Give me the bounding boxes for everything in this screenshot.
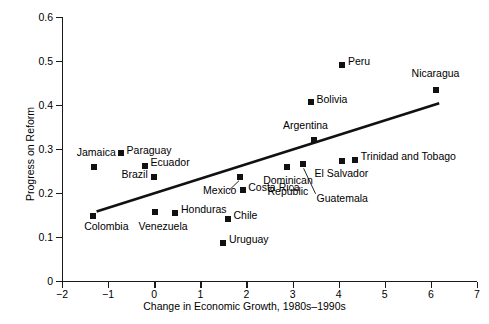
data-point-label: Bolivia	[317, 94, 348, 106]
data-point-label: Colombia	[84, 221, 128, 233]
data-point-marker	[220, 240, 226, 246]
data-point-marker	[339, 158, 345, 164]
data-point-marker	[300, 161, 306, 167]
data-point-marker	[311, 137, 317, 143]
data-point-label: Chile	[234, 210, 258, 222]
data-point-label: Brazil	[0, 169, 148, 181]
x-tick	[62, 282, 63, 288]
data-point-label: Uruguay	[229, 234, 269, 246]
data-point-label: Ecuador	[151, 157, 190, 169]
data-point-marker	[151, 174, 157, 180]
y-tick	[56, 105, 62, 106]
data-point-marker	[118, 150, 124, 156]
data-point-marker	[152, 209, 158, 215]
data-point-label: Honduras	[181, 204, 227, 216]
x-tick-label: −1	[88, 289, 128, 300]
x-tick-label: 1	[180, 289, 220, 300]
x-tick	[431, 282, 432, 288]
data-point-label: Paraguay	[127, 145, 172, 157]
x-tick	[246, 282, 247, 288]
x-tick	[293, 282, 294, 288]
data-point-label: Trinidad and Tobago	[361, 151, 456, 163]
data-point-marker	[352, 157, 358, 163]
data-point-marker	[339, 62, 345, 68]
data-point-label: Nicaragua	[376, 68, 489, 80]
x-tick-label: −2	[42, 289, 82, 300]
data-point-label: Guatemala	[317, 193, 368, 205]
x-tick	[477, 282, 478, 288]
y-tick	[56, 17, 62, 18]
data-point-marker	[172, 210, 178, 216]
x-axis-title: Change in Economic Growth, 1980s–1990s	[0, 300, 489, 312]
x-tick	[200, 282, 201, 288]
y-tick-label: 0.2	[13, 188, 53, 199]
x-tick-label: 0	[134, 289, 174, 300]
x-tick-label: 5	[365, 289, 405, 300]
x-tick	[339, 282, 340, 288]
y-tick-label: 0.3	[13, 144, 53, 155]
y-tick	[56, 237, 62, 238]
x-tick-label: 7	[457, 289, 489, 300]
data-point-marker	[90, 213, 96, 219]
y-tick-label: 0.5	[13, 56, 53, 67]
y-tick-label: 0.1	[13, 232, 53, 243]
y-axis-line	[62, 17, 63, 281]
x-tick-label: 3	[273, 289, 313, 300]
y-tick	[56, 149, 62, 150]
data-point-label: Venezuela	[139, 221, 188, 233]
x-tick-label: 4	[319, 289, 359, 300]
scatter-chart: Progress on Reform Change in Economic Gr…	[0, 0, 489, 324]
y-tick	[56, 193, 62, 194]
data-point-marker	[308, 99, 314, 105]
data-point-label: El Salvador	[281, 168, 401, 180]
y-tick-label: 0.4	[13, 100, 53, 111]
data-point-marker	[433, 87, 439, 93]
x-tick	[385, 282, 386, 288]
y-tick-label: 0	[13, 276, 53, 287]
x-tick-label: 6	[411, 289, 451, 300]
x-tick	[154, 282, 155, 288]
y-tick	[56, 61, 62, 62]
data-point-label: Jamaica	[77, 147, 116, 159]
x-tick	[108, 282, 109, 288]
data-point-label: Peru	[348, 56, 370, 68]
data-point-marker	[225, 216, 231, 222]
x-tick-label: 2	[226, 289, 266, 300]
y-tick-label: 0.6	[13, 12, 53, 23]
data-point-label: Argentina	[245, 120, 365, 132]
x-axis-line	[62, 281, 477, 282]
